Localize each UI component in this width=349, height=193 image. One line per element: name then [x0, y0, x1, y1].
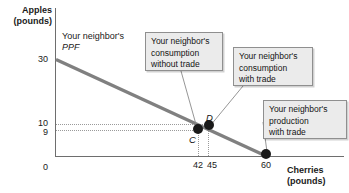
point-x-intercept: [261, 149, 271, 159]
x-tick-60: 60: [256, 161, 276, 170]
point-label-C: C: [189, 134, 196, 145]
point-label-D: D: [206, 112, 213, 123]
point-C: [193, 124, 203, 134]
callout-production-with-trade: Your neighbor's production with trade: [263, 100, 347, 139]
x-tick-45: 45: [202, 161, 222, 170]
y-tick-30: 30: [24, 55, 48, 64]
guide-lines: [56, 125, 209, 157]
callout-consumption-without-trade: Your neighbor's consumption without trad…: [145, 32, 223, 71]
callout-consumption-with-trade: Your neighbor's consumption with trade: [233, 47, 313, 86]
y-axis-title: Apples (pounds): [2, 5, 52, 26]
leader-line-with: [210, 86, 243, 126]
y-tick-0: 0: [24, 163, 48, 172]
y-tick-9: 9: [24, 128, 48, 137]
ppf-label-prefix: Your neighbor's: [62, 31, 124, 41]
ppf-label-italic: PPF: [62, 42, 80, 52]
x-axis-title: Cherries (pounds): [287, 165, 347, 186]
ppf-label: Your neighbor's PPF: [62, 31, 124, 53]
ppf-chart-figure: Apples (pounds) Cherries (pounds) 30 10 …: [0, 0, 349, 193]
